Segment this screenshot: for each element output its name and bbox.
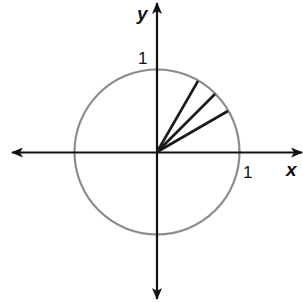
angle-rays [157, 81, 228, 152]
diagram-canvas: y 1 1 x [0, 0, 303, 302]
y-tick-label: 1 [138, 49, 147, 68]
unit-circle-diagram: y 1 1 x [0, 0, 303, 302]
x-tick-label: 1 [243, 163, 252, 182]
x-axis-label: x [285, 159, 298, 180]
y-axis-label: y [136, 3, 149, 24]
